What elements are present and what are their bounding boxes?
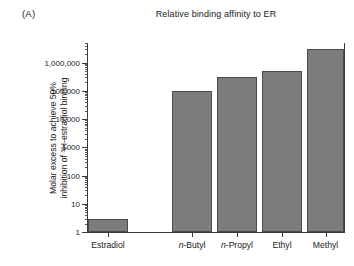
bar-ethyl <box>262 71 302 232</box>
y-tick-minor <box>85 71 88 72</box>
y-tick-label: 100,000 <box>51 86 80 95</box>
right-spine <box>344 43 345 233</box>
y-axis-line <box>87 43 88 233</box>
plot-area: 110100100010,000100,0001,000,000 Estradi… <box>87 43 345 233</box>
y-tick-minor <box>85 190 88 191</box>
figure-panel-a: (A) Relative binding affinity to ER Mola… <box>0 0 354 266</box>
y-tick-minor <box>85 82 88 83</box>
x-tick <box>282 233 283 237</box>
y-axis-title-line-1: Molar excess to achieve 50% <box>48 43 59 233</box>
y-tick-label: 10 <box>71 199 80 208</box>
x-tick-label: Estradiol <box>91 240 124 250</box>
y-tick-minor <box>85 128 88 129</box>
y-tick-minor <box>85 219 88 220</box>
y-tick-minor <box>85 159 88 160</box>
y-tick-minor <box>85 187 88 188</box>
y-tick-minor <box>85 94 88 95</box>
bar-n-butyl <box>172 91 212 232</box>
bar-methyl <box>307 49 344 232</box>
y-tick-minor <box>85 74 88 75</box>
y-tick-minor <box>85 149 88 150</box>
x-axis-line <box>87 232 345 233</box>
x-tick-label: Methyl <box>313 240 338 250</box>
y-tick-minor <box>85 122 88 123</box>
x-tick <box>326 233 327 237</box>
bar-estradiol <box>88 219 128 232</box>
y-tick-minor <box>85 210 88 211</box>
y-tick-minor <box>85 130 88 131</box>
x-tick <box>192 233 193 237</box>
panel-label: (A) <box>22 8 35 19</box>
y-tick-label: 100 <box>67 171 80 180</box>
y-tick-minor <box>85 182 88 183</box>
y-tick-minor <box>85 156 88 157</box>
y-tick-label: 10,000 <box>56 115 80 124</box>
y-tick-minor <box>85 150 88 151</box>
y-tick-minor <box>85 207 88 208</box>
x-tick-label: n-Propyl <box>221 240 253 250</box>
y-tick-label: 1 <box>76 228 80 237</box>
y-tick-minor <box>85 97 88 98</box>
y-tick-label: 1,000,000 <box>44 58 80 67</box>
y-tick-minor <box>85 77 88 78</box>
y-tick-minor <box>85 67 88 68</box>
y-tick-label: 1000 <box>62 143 80 152</box>
y-tick-minor <box>85 177 88 178</box>
x-tick-label: n-Butyl <box>179 240 206 250</box>
y-tick-minor <box>85 139 88 140</box>
y-tick-minor <box>85 69 88 70</box>
y-tick-minor <box>85 120 88 121</box>
bar-n-propyl <box>217 77 257 232</box>
y-tick-minor <box>85 152 88 153</box>
y-tick-minor <box>85 154 88 155</box>
y-axis-title: Molar excess to achieve 50% inhibition o… <box>14 43 48 233</box>
chart-title: Relative binding affinity to ER <box>88 9 344 19</box>
y-tick-minor <box>85 99 88 100</box>
y-tick-minor <box>85 205 88 206</box>
y-tick-minor <box>85 65 88 66</box>
y-tick-minor <box>85 102 88 103</box>
y-tick-minor <box>85 46 88 47</box>
y-tick-minor <box>85 162 88 163</box>
x-tick-label: Ethyl <box>272 240 291 250</box>
y-tick-minor <box>85 64 88 65</box>
y-tick-minor <box>85 125 88 126</box>
y-tick-minor <box>85 167 88 168</box>
y-tick-minor <box>85 224 88 225</box>
y-tick-minor <box>85 49 88 50</box>
y-tick-minor <box>85 95 88 96</box>
y-axis-title-line-2: inhibition of 3H-estradiol binding <box>59 43 70 233</box>
y-tick-minor <box>85 124 88 125</box>
y-tick-minor <box>85 92 88 93</box>
y-tick-minor <box>85 184 88 185</box>
y-tick-minor <box>85 106 88 107</box>
y-tick-minor <box>85 178 88 179</box>
y-tick-minor <box>85 43 88 44</box>
y-tick-minor <box>85 54 88 55</box>
y-tick-major <box>82 232 87 233</box>
y-tick-minor <box>85 111 88 112</box>
y-tick-minor <box>85 134 88 135</box>
y-tick-minor <box>85 215 88 216</box>
y-tick-minor <box>85 212 88 213</box>
y-tick-minor <box>85 195 88 196</box>
x-tick <box>237 233 238 237</box>
y-tick-minor <box>85 180 88 181</box>
x-tick <box>108 233 109 237</box>
y-tick-minor <box>85 208 88 209</box>
